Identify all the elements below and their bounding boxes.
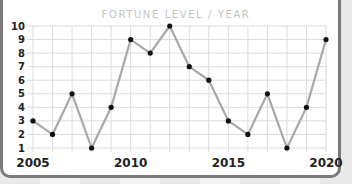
data-point — [50, 132, 55, 137]
data-point — [265, 91, 270, 96]
y-tick-label: 10 — [11, 21, 25, 32]
data-point — [323, 37, 328, 42]
x-tick-label: 2010 — [114, 156, 147, 170]
chart-title: FORTUNE LEVEL / YEAR — [102, 9, 251, 20]
data-point — [109, 105, 114, 110]
data-point — [69, 91, 74, 96]
y-tick-label: 2 — [18, 129, 25, 140]
data-point — [30, 118, 35, 123]
y-tick-label: 1 — [18, 143, 25, 154]
x-tick-label: 2015 — [212, 156, 245, 170]
data-point — [304, 105, 309, 110]
data-point — [128, 37, 133, 42]
x-tick-label: 2005 — [16, 156, 49, 170]
data-point — [206, 78, 211, 83]
y-tick-label: 4 — [18, 102, 25, 113]
x-axis-ticks: 2005201020152020 — [16, 156, 342, 170]
y-tick-label: 7 — [18, 61, 25, 72]
data-point — [89, 145, 94, 150]
fortune-series-line — [33, 26, 326, 148]
y-tick-label: 6 — [18, 75, 25, 86]
data-point-markers — [30, 23, 328, 150]
y-tick-label: 5 — [18, 88, 25, 99]
data-point — [245, 132, 250, 137]
y-axis-ticks: 12345678910 — [11, 21, 25, 154]
data-point — [148, 51, 153, 56]
y-tick-label: 3 — [18, 115, 25, 126]
data-point — [187, 64, 192, 69]
data-point — [226, 118, 231, 123]
y-tick-label: 9 — [18, 34, 25, 45]
x-tick-label: 2020 — [309, 156, 342, 170]
y-tick-label: 8 — [18, 48, 25, 59]
data-point — [284, 145, 289, 150]
data-point — [167, 23, 172, 28]
fortune-line-chart: FORTUNE LEVEL / YEAR 12345678910 2005201… — [0, 0, 352, 184]
